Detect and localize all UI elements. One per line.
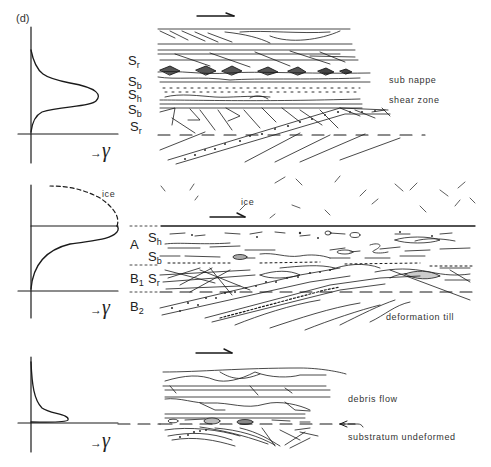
top-section-drawing (158, 29, 425, 164)
profile-ice-label: ice (102, 190, 115, 199)
bottom-shear-arrow (196, 349, 232, 353)
middle-shear-arrow (210, 213, 245, 217)
annotation-debris-flow: debris flow (348, 395, 398, 404)
panel-tag: (d) (16, 13, 29, 24)
section-ice-label: ice (241, 198, 254, 207)
diagram-artwork (0, 0, 491, 467)
label-main: S (148, 271, 157, 286)
label-sub: r (157, 278, 160, 288)
annotation-deformation-till: deformation till (386, 313, 454, 322)
label-main: S (130, 119, 139, 134)
label-main: S (148, 249, 157, 264)
zone-label-b1: B1 (130, 272, 144, 288)
label-main: S (128, 53, 137, 68)
label-main: B (130, 299, 139, 314)
top-gamma-axis-label: →γ (90, 140, 110, 160)
middle-gamma-axis-label: →γ (90, 297, 110, 317)
annotation-sub-nappe: sub nappe (389, 76, 436, 85)
top-label-sb-lower: Sb (128, 103, 142, 119)
middle-label-sh: Sh (148, 231, 162, 247)
annotation-substratum-undeformed: substratum undeformed (348, 433, 456, 442)
top-label-sr-upper: Sr (128, 54, 140, 70)
bottom-profile-graph (18, 357, 160, 452)
gamma-symbol: γ (102, 296, 110, 318)
bottom-section-drawing (160, 368, 363, 448)
gamma-symbol: γ (102, 139, 110, 161)
label-sub: b (157, 256, 162, 266)
middle-ice-ticks (161, 176, 475, 218)
label-main: S (148, 230, 157, 245)
label-main: S (128, 87, 137, 102)
label-sub: h (157, 237, 162, 247)
top-label-sr-lower: Sr (130, 120, 142, 136)
label-sub: r (137, 60, 140, 70)
gamma-symbol: γ (102, 429, 110, 451)
annotation-shear-zone: shear zone (389, 96, 440, 105)
zone-label-a: A (130, 238, 139, 251)
label-sub: b (137, 109, 142, 119)
zone-label-b2: B2 (130, 300, 144, 316)
bottom-gamma-axis-label: →γ (90, 430, 110, 450)
middle-label-sb: Sb (148, 250, 162, 266)
label-main: S (128, 102, 137, 117)
label-sub: r (139, 126, 142, 136)
label-main: B (130, 271, 139, 286)
label-sub: 2 (139, 306, 144, 316)
top-shear-arrow (197, 13, 234, 16)
label-sub: 1 (139, 278, 144, 288)
middle-label-sr: Sr (148, 272, 160, 288)
